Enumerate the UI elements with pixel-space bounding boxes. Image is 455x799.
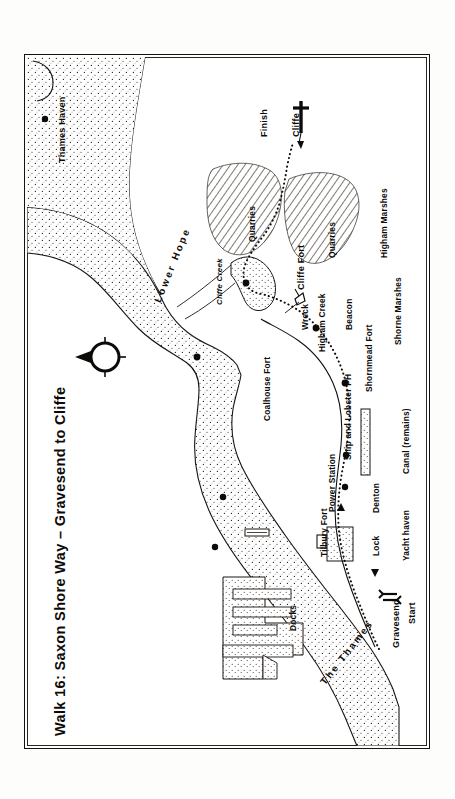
label-quarries-east: Quarries bbox=[327, 222, 337, 258]
label-start: Start bbox=[407, 602, 417, 624]
label-tilbury-fort: Tilbury Fort bbox=[319, 508, 329, 557]
label-cliffe-creek: Cliffe Creek bbox=[215, 258, 224, 305]
denton-marker bbox=[342, 484, 348, 490]
label-cliffe-fort: Cliffe Fort bbox=[296, 245, 306, 290]
compass-rose-icon bbox=[75, 337, 126, 377]
label-shornmead-fort: Shornmead Fort bbox=[364, 325, 374, 392]
label-docks: Docks bbox=[288, 605, 298, 631]
label-gravesend: Gravesend bbox=[391, 599, 401, 648]
label-finish: Finish bbox=[259, 109, 269, 137]
label-wreck: Wreck bbox=[300, 304, 310, 330]
canal-remains-strip bbox=[361, 409, 370, 475]
label-cliffe: Cliffe bbox=[291, 113, 301, 137]
label-shorne-marshes: Shorne Marshes bbox=[393, 277, 403, 345]
quarries-west-area bbox=[207, 163, 282, 255]
label-power-station: Power Station bbox=[327, 454, 337, 512]
label-thames-haven: Thames Haven bbox=[57, 96, 67, 163]
label-yacht-haven: Yacht haven bbox=[401, 510, 411, 561]
tilbury-fort-marker bbox=[212, 544, 218, 550]
map-page: Walk 16: Saxon Shore Way – Gravesend to … bbox=[0, 0, 455, 799]
label-canal-remains: Canal (remains) bbox=[401, 408, 411, 474]
label-lock: Lock bbox=[371, 536, 381, 556]
tilbury-fort-jetty bbox=[245, 529, 269, 536]
label-ship-and-lobster-ph: Ship and Lobster PH bbox=[343, 374, 353, 460]
page-title: Walk 16: Saxon Shore Way – Gravesend to … bbox=[52, 387, 68, 736]
route-direction-arrow-icon bbox=[337, 503, 345, 511]
coalhouse-fort-marker bbox=[194, 354, 201, 361]
label-higham-creek: Higham Creek bbox=[317, 293, 327, 352]
label-quarries-west: Quarries bbox=[247, 206, 257, 242]
map-canvas bbox=[27, 57, 427, 746]
cliffe-fort-marker bbox=[243, 280, 250, 287]
label-denton: Denton bbox=[371, 483, 381, 513]
label-higham-marshes: Higham Marshes bbox=[379, 188, 389, 258]
power-station-marker bbox=[220, 494, 226, 500]
label-coalhouse-fort: Coalhouse Fort bbox=[262, 357, 272, 421]
route-start-arrow-icon bbox=[371, 569, 379, 577]
label-beacon: Beacon bbox=[344, 299, 354, 330]
cliffe-creek-water bbox=[177, 257, 276, 319]
thames-haven-marker bbox=[42, 116, 48, 122]
